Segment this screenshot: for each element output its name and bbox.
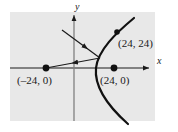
label-focus-right: (24, 0) bbox=[100, 74, 130, 87]
label-point-on-curve: (24, 24) bbox=[118, 37, 153, 50]
point-focus-left bbox=[43, 65, 50, 72]
panel-background bbox=[10, 12, 155, 121]
figure-canvas: (–24, 0) (24, 0) (24, 24) x y bbox=[0, 0, 178, 132]
label-focus-left: (–24, 0) bbox=[17, 74, 52, 87]
x-axis-label: x bbox=[156, 55, 162, 66]
point-on-curve bbox=[114, 29, 120, 35]
point-focus-right bbox=[111, 65, 118, 72]
math-figure: (–24, 0) (24, 0) (24, 24) x y bbox=[0, 0, 178, 132]
y-axis-label: y bbox=[74, 1, 80, 12]
